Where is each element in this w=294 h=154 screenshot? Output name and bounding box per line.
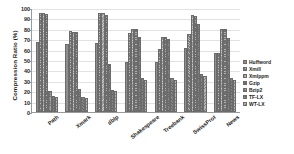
chart-legend: HuffwordXmillXmlppmGzipBzip2TF-LXWT-LX [243,59,294,108]
bar [233,80,236,112]
bar-group [95,9,117,112]
y-tick-label: 20 [24,89,30,95]
bar-group [214,9,236,112]
bar [174,80,177,112]
legend-item: TF-LX [243,94,294,100]
bar-group [184,9,206,112]
y-tick-label: 70 [24,37,30,43]
legend-label: Gzip [249,80,260,86]
y-tick-label: 30 [24,79,30,85]
chart-figure: Compression Ratio (%) 010203040506070809… [0,0,294,154]
legend-label: TF-LX [249,94,263,100]
legend-label: WT-LX [249,101,265,107]
y-tick-label: 50 [24,58,30,64]
y-tick-label: 10 [24,100,30,106]
legend-label: Xmlppm [249,73,269,79]
legend-item: Xmill [243,66,294,72]
bar-group [125,9,147,112]
legend-item: WT-LX [243,101,294,107]
bar [144,80,147,112]
legend-swatch [243,102,247,106]
bar-group [36,9,58,112]
legend-label: Xmill [249,66,261,72]
plot-area: 0102030405060708090100 [31,9,240,113]
legend-swatch [243,67,247,71]
y-tick-label: 60 [24,48,30,54]
bar-group [155,9,177,112]
legend-item: Bzip2 [243,87,294,93]
y-tick-label: 0 [27,110,30,116]
legend-swatch [243,60,247,64]
legend-swatch [243,74,247,78]
legend-item: Gzip [243,80,294,86]
legend-label: Huffword [249,59,271,65]
bar [55,97,58,112]
legend-swatch [243,81,247,85]
bar [85,98,88,112]
legend-swatch [243,95,247,99]
y-tick-label: 100 [21,6,30,12]
bar-group [65,9,87,112]
y-tick-label: 80 [24,27,30,33]
x-axis-tick-labels: PathXmarkdblpShakespeareTreebankSwissPro… [31,114,240,154]
legend-item: Huffword [243,59,294,65]
bar-groups [32,9,240,112]
bar [203,76,206,112]
legend-label: Bzip2 [249,87,262,93]
y-tick-label: 90 [24,16,30,22]
bar [114,91,117,112]
legend-swatch [243,88,247,92]
y-tick-label: 40 [24,68,30,74]
y-axis-title: Compression Ratio (%) [11,18,18,114]
legend-item: Xmlppm [243,73,294,79]
